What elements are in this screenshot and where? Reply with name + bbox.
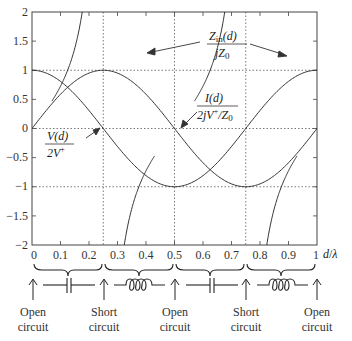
standing-wave-diagram: 2 1.5 1 0.5 0 −0.5 −1 −1.5 −2 0 0.1 0.2 … bbox=[0, 0, 352, 341]
svg-text:circuit: circuit bbox=[160, 320, 191, 334]
inductor-icon bbox=[257, 279, 308, 290]
svg-text:0.5: 0.5 bbox=[13, 92, 28, 106]
svg-text:circuit: circuit bbox=[231, 320, 262, 334]
svg-text:circuit: circuit bbox=[89, 320, 120, 334]
svg-text:2: 2 bbox=[22, 5, 28, 19]
capacitor-icon bbox=[43, 278, 95, 293]
svg-text:1: 1 bbox=[22, 63, 28, 77]
zin-label: Zin(d) jZ0 bbox=[207, 29, 247, 61]
svg-text:0.6: 0.6 bbox=[196, 248, 211, 262]
y-tick-labels: 2 1.5 1 0.5 0 −0.5 −1 −1.5 −2 bbox=[6, 5, 28, 252]
svg-text:0.5: 0.5 bbox=[167, 248, 182, 262]
svg-text:0.3: 0.3 bbox=[110, 248, 125, 262]
endpoint-labels: Open circuit Short circuit Open circuit … bbox=[18, 305, 333, 334]
x-axis-label: d/λ bbox=[323, 247, 338, 261]
svg-text:I(d): I(d) bbox=[204, 91, 223, 105]
svg-text:Short: Short bbox=[233, 305, 260, 319]
svg-text:−2: −2 bbox=[15, 238, 28, 252]
svg-text:1: 1 bbox=[313, 248, 319, 262]
svg-text:2V+: 2V+ bbox=[47, 145, 65, 160]
svg-text:0.1: 0.1 bbox=[53, 248, 68, 262]
voltage-label: V(d) 2V+ bbox=[45, 129, 74, 160]
impedance-curve-branch-1 bbox=[52, 0, 100, 101]
region-braces bbox=[34, 264, 315, 276]
svg-text:Short: Short bbox=[91, 305, 118, 319]
svg-text:Open: Open bbox=[20, 305, 46, 319]
svg-text:0.7: 0.7 bbox=[224, 248, 239, 262]
svg-text:circuit: circuit bbox=[302, 320, 333, 334]
svg-text:0.9: 0.9 bbox=[281, 248, 296, 262]
svg-text:Open: Open bbox=[162, 305, 188, 319]
svg-text:−1: −1 bbox=[15, 179, 28, 193]
svg-text:0: 0 bbox=[22, 121, 28, 135]
svg-text:2jV+/Z0: 2jV+/Z0 bbox=[197, 107, 233, 123]
annotation-arrows bbox=[86, 42, 287, 138]
svg-text:0.8: 0.8 bbox=[253, 248, 268, 262]
svg-text:jZ0: jZ0 bbox=[213, 46, 230, 61]
svg-text:circuit: circuit bbox=[18, 320, 49, 334]
current-label: I(d) 2jV+/Z0 bbox=[197, 91, 238, 123]
svg-text:Open: Open bbox=[304, 305, 330, 319]
svg-text:−1.5: −1.5 bbox=[6, 209, 28, 223]
svg-text:V(d): V(d) bbox=[47, 129, 68, 143]
x-tick-labels: 0 0.1 0.2 0.3 0.4 0.5 0.6 0.7 0.8 0.9 1 bbox=[31, 248, 319, 262]
inductor-icon bbox=[114, 279, 165, 290]
svg-text:0: 0 bbox=[31, 248, 37, 262]
capacitor-icon bbox=[186, 278, 238, 293]
svg-text:0.4: 0.4 bbox=[139, 248, 154, 262]
svg-text:1.5: 1.5 bbox=[13, 34, 28, 48]
svg-text:Zin(d): Zin(d) bbox=[209, 29, 237, 44]
svg-text:−0.5: −0.5 bbox=[6, 150, 28, 164]
svg-text:0.2: 0.2 bbox=[82, 248, 97, 262]
